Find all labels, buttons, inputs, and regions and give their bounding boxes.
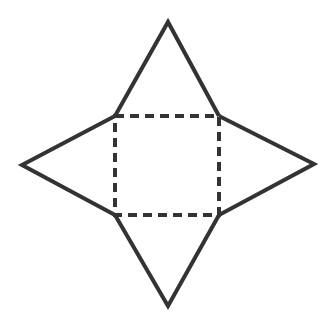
- triangular-faces: [22, 22, 314, 306]
- pyramid-net-diagram: [0, 0, 332, 331]
- triangle-face-right: [219, 116, 314, 215]
- square-base: [115, 116, 219, 215]
- triangle-face-bottom: [115, 215, 219, 306]
- triangle-face-left: [22, 116, 115, 215]
- triangle-face-top: [115, 22, 219, 116]
